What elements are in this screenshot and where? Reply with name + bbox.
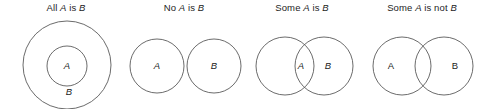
circle-b <box>415 37 473 95</box>
panel-title-connector: is not <box>422 2 451 13</box>
venn-diagram-some-a-is-b: A B <box>240 16 364 109</box>
panel-some-a-is-b: Some A is B A B <box>240 0 364 109</box>
panel-title-variable-b: B <box>198 2 204 13</box>
set-label-a: A <box>388 60 395 71</box>
panel-title-no-a-is-b: No A is B <box>122 2 246 14</box>
panel-title-prefix: No <box>164 2 179 13</box>
syllogism-venn-figure: All A is B A B No A is B A B Some A is B <box>0 0 484 109</box>
panel-title-prefix: All <box>46 2 60 13</box>
set-label-a: A <box>297 60 304 71</box>
panel-title-some-a-is-not-b: Some A is not B <box>360 2 484 14</box>
venn-diagram-all-a-is-b: A B <box>0 16 132 109</box>
venn-diagram-no-a-is-b: A B <box>122 16 246 109</box>
set-label-a: A <box>63 60 70 71</box>
set-label-b: B <box>325 60 332 71</box>
panel-some-a-is-not-b: Some A is not B A B <box>360 0 484 109</box>
panel-title-variable-b: B <box>79 2 85 13</box>
panel-title-connector: is <box>67 2 80 13</box>
panel-title-prefix: Some <box>387 2 415 13</box>
set-label-b: B <box>452 60 458 71</box>
panel-title-variable-b: B <box>322 2 328 13</box>
venn-diagram-some-a-is-not-b: A B <box>360 16 484 109</box>
panel-no-a-is-b: No A is B A B <box>122 0 246 109</box>
panel-title-prefix: Some <box>275 2 303 13</box>
panel-all-a-is-b: All A is B A B <box>0 0 132 109</box>
circle-a <box>256 37 314 95</box>
panel-title-variable-b: B <box>450 2 456 13</box>
panel-title-some-a-is-b: Some A is B <box>240 2 364 14</box>
set-label-a: A <box>153 60 160 71</box>
circle-a <box>373 37 431 95</box>
set-label-b: B <box>211 60 218 71</box>
panel-title-all-a-is-b: All A is B <box>0 2 132 14</box>
set-label-b: B <box>66 86 73 97</box>
panel-title-connector: is <box>185 2 198 13</box>
panel-title-connector: is <box>310 2 323 13</box>
